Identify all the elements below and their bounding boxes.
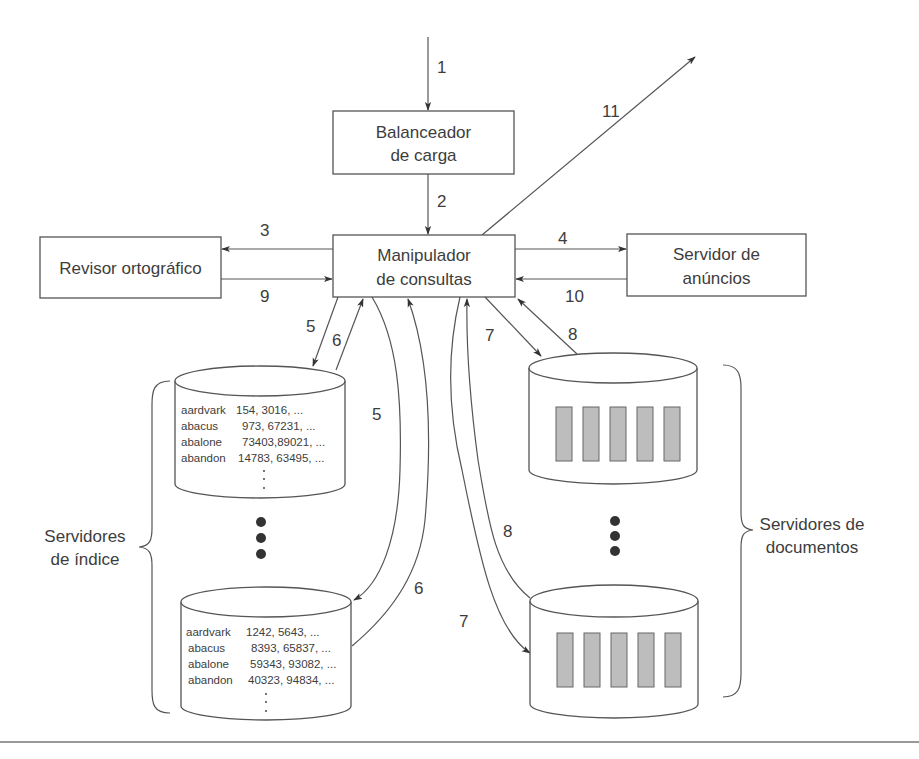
- step-label-2: 2: [437, 192, 446, 211]
- index2-postings-3: 40323, 94834, ...: [248, 674, 334, 686]
- query-handler-box: Manipulador de consultas: [333, 235, 515, 297]
- load-balancer-box: Balanceador de carga: [333, 111, 514, 174]
- index-servers-ellipsis: [256, 517, 266, 559]
- step-label-7b: 7: [459, 612, 468, 631]
- step-label-7a: 7: [485, 326, 494, 345]
- document-server-1: [529, 353, 697, 484]
- search-architecture-diagram: 1 Balanceador de carga 2 11 Manipulador …: [0, 0, 919, 759]
- load-balancer-line1: Balanceador: [376, 123, 472, 142]
- index1-term-0: aardvark: [181, 404, 226, 416]
- spell-checker-box: Revisor ortográfico: [40, 237, 221, 298]
- index2-postings-1: 8393, 65837, ...: [251, 642, 331, 654]
- index1-postings-0: 154, 3016, ...: [236, 404, 303, 416]
- step-label-3: 3: [260, 221, 269, 240]
- document-block-icon: [583, 407, 599, 461]
- index1-term-1: abacus: [181, 420, 218, 432]
- arrow-7-doc2: [451, 297, 530, 653]
- query-handler-line1: Manipulador: [377, 246, 471, 265]
- index-server-2: aardvark 1242, 5643, ... abacus 8393, 65…: [181, 587, 351, 720]
- document-servers-label-line1: Servidores de: [760, 515, 865, 534]
- ad-server-box: Servidor de anúncios: [627, 234, 806, 296]
- index2-postings-2: 59343, 93082, ...: [250, 658, 336, 670]
- step-label-5b: 5: [372, 405, 381, 424]
- document-block-icon: [584, 633, 600, 687]
- step-label-5a: 5: [306, 317, 315, 336]
- index1-postings-2: 73403,89021, ...: [242, 436, 325, 448]
- document-block-icon: [637, 407, 653, 461]
- index-server-1: aardvark 154, 3016, ... abacus 973, 6723…: [175, 366, 345, 498]
- index1-postings-3: 14783, 63495, ...: [238, 452, 324, 464]
- load-balancer-line2: de carga: [390, 146, 457, 165]
- index2-term-0: aardvark: [186, 626, 231, 638]
- index2-term-1: abacus: [188, 642, 225, 654]
- document-block-icon: [638, 633, 654, 687]
- arrow-8-doc2: [467, 299, 530, 598]
- document-block-icon: [664, 407, 680, 461]
- document-servers-brace: [723, 365, 753, 697]
- step-label-1: 1: [437, 58, 446, 77]
- index-servers-brace: [139, 381, 170, 713]
- document-block-icon: [556, 407, 572, 461]
- step-label-8a: 8: [568, 325, 577, 344]
- query-handler-line2: de consultas: [376, 270, 471, 289]
- ad-server-line2: anúncios: [682, 269, 750, 288]
- step-label-9: 9: [260, 287, 269, 306]
- ad-server-line1: Servidor de: [673, 245, 760, 264]
- index1-postings-1: 973, 67231, ...: [242, 420, 316, 432]
- index-servers-label-line1: Servidores: [44, 527, 125, 546]
- arrow-5-index2: [354, 297, 400, 600]
- document-block-icon: [557, 633, 573, 687]
- step-label-6a: 6: [332, 331, 341, 350]
- step-label-6b: 6: [414, 579, 423, 598]
- step-label-4: 4: [558, 229, 567, 248]
- step-label-11: 11: [602, 102, 620, 121]
- document-block-icon: [611, 633, 627, 687]
- index2-term-2: abalone: [188, 658, 229, 670]
- index2-term-3: abandon: [188, 674, 233, 686]
- document-block-icon: [665, 633, 681, 687]
- step-label-10: 10: [565, 287, 584, 306]
- document-block-icon: [610, 407, 626, 461]
- index1-term-3: abandon: [181, 452, 226, 464]
- index2-postings-0: 1242, 5643, ...: [246, 626, 320, 638]
- document-server-2: [530, 585, 698, 718]
- document-servers-ellipsis: [610, 516, 620, 556]
- index-servers-label-line2: de índice: [51, 550, 120, 569]
- document-servers-label-line2: documentos: [766, 538, 859, 557]
- index1-term-2: abalone: [181, 436, 222, 448]
- step-label-8b: 8: [503, 522, 512, 541]
- spell-checker-label: Revisor ortográfico: [59, 259, 202, 278]
